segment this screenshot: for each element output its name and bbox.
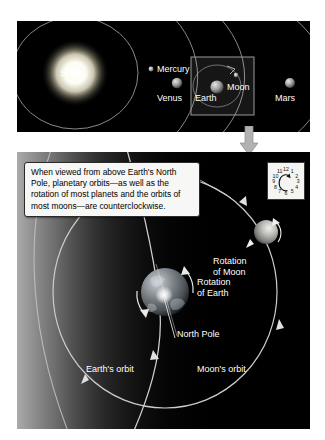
label-mercury: Mercury — [157, 64, 190, 74]
svg-text:11: 11 — [277, 168, 282, 174]
label-moon: Moon — [227, 82, 250, 92]
venus-body — [172, 78, 182, 88]
label-venus: Venus — [157, 93, 182, 103]
clock-icon: 12 1 2 3 4 5 6 7 8 9 10 11 — [268, 163, 304, 199]
label-rotation-of-moon-line2: of Moon — [213, 267, 247, 278]
astronomy-figure: Sun Mercury Venus Earth Moon Mars — [0, 0, 325, 440]
earth-moon-panel: When viewed from above Earth's North Pol… — [17, 152, 310, 429]
svg-text:4: 4 — [295, 184, 298, 190]
label-moons-orbit: Moon's orbit — [197, 364, 246, 375]
label-rotation-of-moon: Rotation of Moon — [213, 256, 247, 277]
north-pole-glow — [155, 286, 173, 304]
svg-text:9: 9 — [272, 178, 275, 184]
label-north-pole: North Pole — [177, 329, 220, 340]
label-earths-orbit: Earth's orbit — [86, 364, 134, 375]
svg-text:1: 1 — [291, 168, 294, 174]
counterclockwise-clock-badge: 12 1 2 3 4 5 6 7 8 9 10 11 — [267, 162, 305, 200]
earth-body — [210, 80, 223, 93]
svg-text:5: 5 — [291, 188, 294, 194]
label-rotation-of-earth-line1: Rotation — [197, 277, 231, 288]
label-mars: Mars — [275, 93, 295, 103]
label-earth: Earth — [195, 93, 217, 103]
caption-callout: When viewed from above Earth's North Pol… — [24, 162, 200, 217]
label-rotation-of-earth: Rotation of Earth — [197, 277, 231, 298]
moon-body — [234, 73, 238, 77]
caption-text: When viewed from above Earth's North Pol… — [31, 167, 180, 211]
label-rotation-of-moon-line1: Rotation — [213, 256, 247, 267]
label-rotation-of-earth-line2: of Earth — [197, 288, 231, 299]
svg-text:12: 12 — [283, 166, 289, 172]
svg-text:8: 8 — [274, 184, 277, 190]
label-sun: Sun — [60, 68, 77, 78]
solar-system-panel: Sun Mercury Venus Earth Moon Mars — [17, 21, 310, 132]
mercury-body — [149, 67, 154, 72]
mars-body — [285, 78, 295, 88]
